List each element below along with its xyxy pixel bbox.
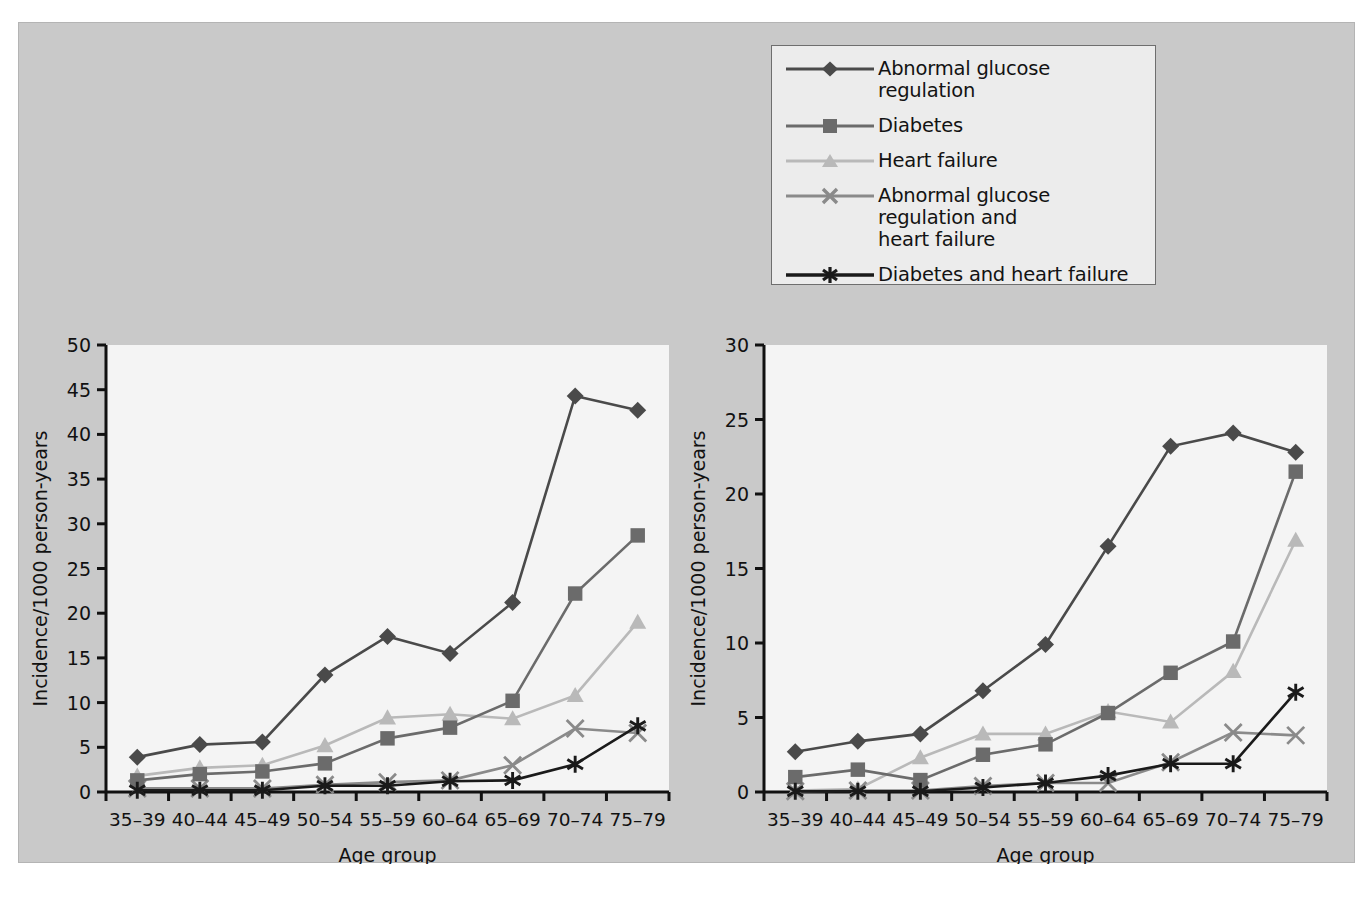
square-marker (851, 762, 865, 776)
plot-area (106, 345, 669, 792)
x-axis-title: Age group (997, 844, 1095, 864)
legend: Abnormal glucose regulation Diabetes Hea… (771, 45, 1156, 285)
cross-marker-icon (782, 185, 878, 207)
square-marker (788, 770, 802, 784)
x-tick-label: 40–44 (172, 809, 228, 830)
legend-label: Heart failure (878, 150, 997, 172)
legend-label: Abnormal glucose regulation andheart fai… (878, 185, 1147, 251)
y-tick-label: 25 (725, 409, 749, 431)
legend-item-diabetes: Diabetes (782, 115, 1147, 137)
x-tick-label: 35–39 (767, 809, 823, 830)
y-tick-label: 20 (67, 602, 91, 624)
y-tick-label: 5 (737, 707, 749, 729)
y-tick-label: 25 (67, 558, 91, 580)
square-marker (380, 731, 394, 745)
asterisk-marker-icon (782, 264, 878, 286)
square-marker (1101, 706, 1115, 720)
square-marker-icon (782, 115, 878, 137)
x-tick-label: 60–64 (1080, 809, 1136, 830)
x-tick-label: 75–79 (610, 809, 666, 830)
y-tick-label: 0 (79, 781, 91, 803)
legend-item-diabetes-and-heart-failure: Diabetes and heart failure (782, 264, 1147, 286)
square-marker (505, 694, 519, 708)
square-marker (1038, 737, 1052, 751)
legend-label: Abnormal glucose regulation (878, 58, 1147, 102)
y-tick-label: 10 (67, 692, 91, 714)
square-marker (1226, 634, 1240, 648)
y-tick-label: 0 (737, 781, 749, 803)
y-tick-label: 40 (67, 423, 91, 445)
y-tick-label: 20 (725, 483, 749, 505)
x-tick-label: 50–54 (297, 809, 353, 830)
y-tick-label: 45 (67, 379, 91, 401)
diamond-marker-icon (782, 58, 878, 80)
x-tick-label: 45–49 (234, 809, 290, 830)
square-marker (630, 528, 644, 542)
x-tick-label: 50–54 (955, 809, 1011, 830)
y-tick-label: 35 (67, 468, 91, 490)
x-axis-title: Age group (339, 844, 437, 864)
x-tick-label: 70–74 (1205, 809, 1261, 830)
y-tick-label: 15 (67, 647, 91, 669)
x-tick-label: 35–39 (109, 809, 165, 830)
y-tick-label: 30 (725, 334, 749, 356)
legend-label: Diabetes (878, 115, 963, 137)
x-tick-label: 60–64 (422, 809, 478, 830)
chart-left-svg: 0510152025303540455035–3940–4445–4950–54… (19, 23, 699, 864)
y-tick-label: 50 (67, 334, 91, 356)
legend-label: Diabetes and heart failure (878, 264, 1128, 286)
legend-item-heart-failure: Heart failure (782, 150, 1147, 172)
x-tick-label: 65–69 (484, 809, 540, 830)
y-axis-title: Incidence/1000 person-years (687, 430, 709, 706)
y-tick-label: 15 (725, 558, 749, 580)
square-marker (318, 756, 332, 770)
legend-items: Abnormal glucose regulation Diabetes Hea… (782, 58, 1147, 299)
x-tick-label: 40–44 (830, 809, 886, 830)
x-tick-label: 65–69 (1142, 809, 1198, 830)
square-marker (443, 720, 457, 734)
legend-label-line1: Abnormal glucose regulation and (878, 184, 1050, 229)
square-marker (568, 586, 582, 600)
legend-label-line2: heart failure (878, 229, 1147, 251)
chart-left: 0510152025303540455035–3940–4445–4950–54… (19, 23, 699, 862)
x-tick-label: 55–59 (359, 809, 415, 830)
triangle-marker-icon (782, 150, 878, 172)
y-tick-label: 30 (67, 513, 91, 535)
y-axis-title: Incidence/1000 person-years (29, 430, 51, 706)
legend-item-abnormal-glucose-regulation-and-heart-failure: Abnormal glucose regulation andheart fai… (782, 185, 1147, 251)
square-marker (255, 764, 269, 778)
square-marker (193, 767, 207, 781)
x-tick-label: 45–49 (892, 809, 948, 830)
y-tick-label: 10 (725, 632, 749, 654)
square-marker (1288, 464, 1302, 478)
legend-item-abnormal-glucose-regulation: Abnormal glucose regulation (782, 58, 1147, 102)
figure-panel: 0510152025303540455035–3940–4445–4950–54… (18, 22, 1355, 863)
square-marker (1163, 666, 1177, 680)
y-tick-label: 5 (79, 736, 91, 758)
x-tick-label: 55–59 (1017, 809, 1073, 830)
x-tick-label: 75–79 (1268, 809, 1324, 830)
square-marker (976, 748, 990, 762)
x-tick-label: 70–74 (547, 809, 603, 830)
